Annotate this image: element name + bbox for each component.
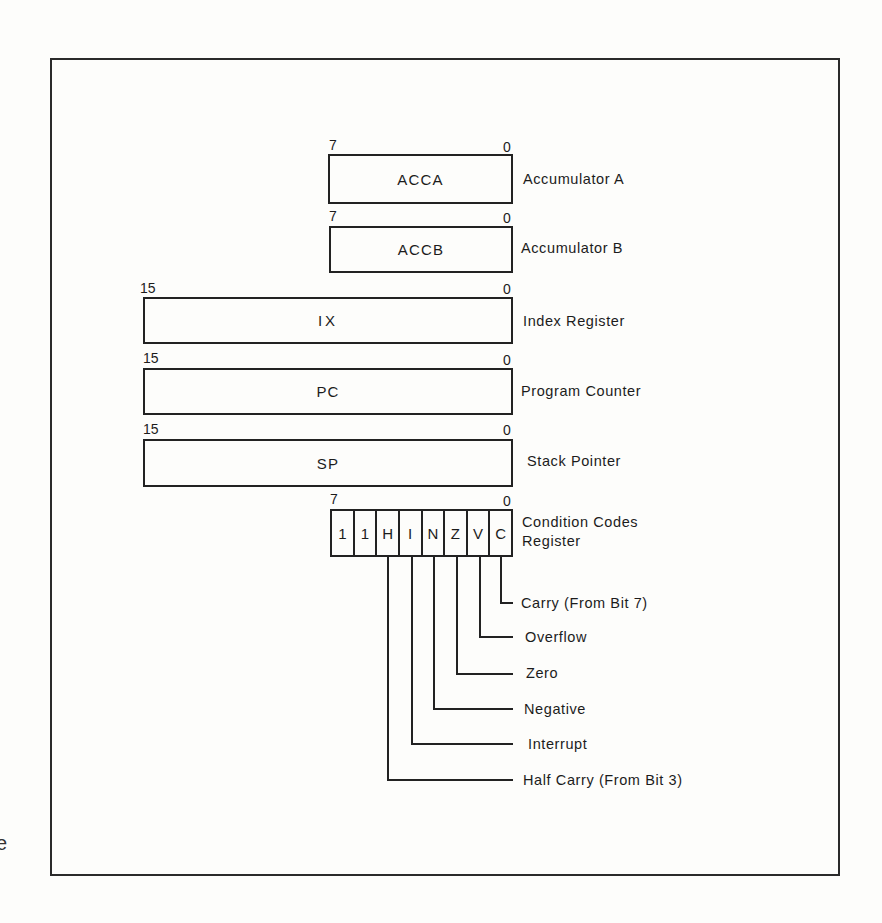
register-ix: IX	[143, 297, 513, 344]
ccr-cell-bit7: 1	[332, 511, 355, 555]
register-pc-name: PC	[316, 383, 339, 400]
acca-high-bit: 7	[329, 138, 337, 152]
register-sp-name: SP	[317, 455, 339, 472]
register-acca: ACCA	[328, 154, 513, 204]
register-condition-codes: 1 1 H I N Z V C	[330, 509, 513, 557]
ccr-high-bit: 7	[330, 492, 338, 506]
ix-high-bit: 15	[140, 281, 156, 295]
flag-label-overflow: Overflow	[525, 629, 587, 646]
flag-label-carry: Carry (From Bit 7)	[521, 595, 648, 612]
ccr-cell-carry: C	[490, 511, 511, 555]
ccr-cell-zero: Z	[445, 511, 468, 555]
flag-label-zero: Zero	[526, 665, 558, 682]
ix-low-bit: 0	[503, 282, 511, 296]
accb-low-bit: 0	[503, 211, 511, 225]
ccr-cell-interrupt: I	[400, 511, 423, 555]
register-acca-name: ACCA	[397, 171, 443, 188]
ccr-cell-half-carry: H	[377, 511, 400, 555]
register-pc-description: Program Counter	[521, 383, 641, 400]
sp-high-bit: 15	[143, 422, 159, 436]
register-pc: PC	[143, 368, 513, 415]
flag-label-half-carry: Half Carry (From Bit 3)	[523, 772, 683, 789]
pc-high-bit: 15	[143, 351, 159, 365]
ccr-cell-overflow: V	[468, 511, 491, 555]
register-ix-description: Index Register	[523, 313, 625, 330]
acca-low-bit: 0	[503, 140, 511, 154]
register-ix-name: IX	[318, 312, 338, 329]
register-acca-description: Accumulator A	[523, 171, 624, 188]
ccr-low-bit: 0	[503, 494, 511, 508]
register-accb-description: Accumulator B	[521, 240, 623, 257]
register-sp: SP	[143, 439, 513, 487]
sp-low-bit: 0	[503, 423, 511, 437]
margin-fragment-text: e	[0, 832, 7, 855]
ccr-description-line2: Register	[522, 533, 581, 550]
flag-label-interrupt: Interrupt	[528, 736, 587, 753]
ccr-description-line1: Condition Codes	[522, 514, 638, 531]
register-accb: ACCB	[329, 226, 513, 273]
ccr-cell-bit6: 1	[355, 511, 378, 555]
register-accb-name: ACCB	[398, 241, 444, 258]
register-sp-description: Stack Pointer	[527, 453, 621, 470]
pc-low-bit: 0	[503, 353, 511, 367]
ccr-cell-negative: N	[423, 511, 446, 555]
flag-label-negative: Negative	[524, 701, 586, 718]
accb-high-bit: 7	[329, 209, 337, 223]
